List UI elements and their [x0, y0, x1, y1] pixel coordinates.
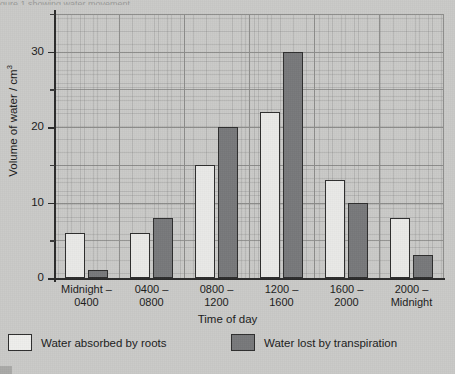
bar-series2-cat3 [218, 127, 238, 278]
x-label-line-1: 0400 – [119, 283, 184, 296]
x-axis-title: Time of day [0, 313, 455, 325]
x-label-line-2: 1200 [184, 296, 249, 309]
x-label-line-2: 0800 [119, 296, 184, 309]
gridline-x-1 [119, 14, 120, 278]
chart-legend: Water absorbed by rootsWater lost by tra… [0, 334, 455, 360]
x-label-line-2: Midnight [379, 296, 444, 309]
gridline-x-2 [184, 14, 185, 278]
legend-item-1: Water absorbed by roots [8, 334, 167, 351]
y-tick-minor-25 [50, 89, 55, 90]
y-tick-minor-35 [50, 14, 55, 15]
page-edge-artifact [0, 366, 12, 374]
x-label-line-2: 0400 [54, 296, 119, 309]
x-label-group-6: 2000 –Midnight [379, 283, 444, 308]
x-label-line-1: Midnight – [54, 283, 119, 296]
gridline-x-4 [314, 14, 315, 278]
x-label-line-1: 1600 – [314, 283, 379, 296]
x-label-group-2: 0400 –0800 [119, 283, 184, 308]
legend-label-1: Water absorbed by roots [41, 337, 167, 349]
plot-top-border [54, 14, 444, 15]
x-label-line-1: 1200 – [249, 283, 314, 296]
x-label-group-1: Midnight –0400 [54, 283, 119, 308]
x-label-line-2: 1600 [249, 296, 314, 309]
chart-figure: gure 1 showing water movement 0102030 Vo… [0, 0, 455, 374]
bar-series1-cat4 [260, 112, 280, 278]
legend-swatch-light [8, 334, 32, 351]
x-label-line-1: 2000 – [379, 283, 444, 296]
gridline-x-3 [249, 14, 250, 278]
bar-series1-cat5 [325, 180, 345, 278]
legend-swatch-dark [231, 334, 255, 351]
bar-series1-cat3 [195, 165, 215, 278]
bar-series2-cat4 [283, 52, 303, 278]
legend-label-2: Water lost by transpiration [264, 337, 397, 349]
y-tick-minor-15 [50, 165, 55, 166]
bar-series2-cat6 [413, 255, 433, 278]
bar-series2-cat5 [348, 203, 368, 278]
y-axis-title: Volume of water / cm3 [5, 16, 19, 226]
bar-series1-cat1 [65, 233, 85, 278]
major-gridlines [54, 14, 444, 278]
bar-series1-cat6 [390, 218, 410, 278]
y-tick-minor-5 [50, 240, 55, 241]
plot-right-border [443, 14, 444, 278]
cropped-caption-remnant: gure 1 showing water movement [0, 0, 455, 5]
x-label-group-5: 1600 –2000 [314, 283, 379, 308]
bar-series2-cat1 [88, 270, 108, 278]
y-tick-20 [48, 127, 55, 129]
x-label-line-2: 2000 [314, 296, 379, 309]
y-tick-label-0: 0 [6, 272, 44, 284]
bar-series2-cat2 [153, 218, 173, 278]
y-tick-30 [48, 52, 55, 54]
x-label-group-3: 0800 –1200 [184, 283, 249, 308]
plot-area [54, 14, 444, 278]
x-label-group-4: 1200 –1600 [249, 283, 314, 308]
gridline-x-5 [379, 14, 380, 278]
legend-item-2: Water lost by transpiration [231, 334, 397, 351]
y-tick-0 [48, 278, 55, 280]
x-axis-line [54, 278, 445, 280]
bar-series1-cat2 [130, 233, 150, 278]
y-tick-10 [48, 203, 55, 205]
x-label-line-1: 0800 – [184, 283, 249, 296]
